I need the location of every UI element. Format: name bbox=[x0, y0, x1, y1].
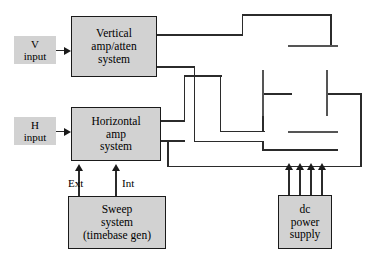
block-v-input: V input bbox=[14, 36, 56, 64]
wire-vamp-out-bottom-v1 bbox=[194, 66, 196, 142]
label-int: Int bbox=[122, 177, 134, 189]
block-h-input: H input bbox=[14, 117, 56, 145]
arrowhead-ext bbox=[75, 164, 83, 171]
wire-vamp-out-top-v1 bbox=[242, 14, 244, 36]
vertical-amp-line-2: amp/atten bbox=[91, 40, 136, 53]
arrowhead-dc-power-1 bbox=[285, 163, 293, 170]
h-input-line-2: input bbox=[24, 131, 47, 143]
dc-power-line-2: power bbox=[291, 216, 320, 229]
oscilloscope-block-diagram: V input H input Vertical amp/atten syste… bbox=[0, 0, 379, 259]
wire-vamp-out-bottom-h2 bbox=[194, 141, 264, 143]
wire-int-trigger bbox=[115, 171, 117, 196]
wire-hamp-out-bottom-v1 bbox=[167, 140, 169, 167]
block-horizontal-amp-system: Horizontal amp system bbox=[71, 107, 161, 161]
arrowhead-dc-power-4 bbox=[318, 163, 326, 170]
crt-horizontal-plate-lower bbox=[288, 131, 338, 133]
wire-crt-mid-v bbox=[220, 75, 222, 132]
v-input-line-2: input bbox=[24, 50, 47, 62]
vertical-amp-line-3: system bbox=[98, 53, 130, 66]
block-sweep-system: Sweep system (timebase gen) bbox=[68, 196, 166, 249]
wire-vamp-out-top-h1 bbox=[157, 34, 243, 36]
wire-hamp-out-top-v1 bbox=[184, 75, 186, 122]
vertical-amp-line-1: Vertical bbox=[96, 27, 132, 40]
wire-hamp-out-top-h1 bbox=[161, 120, 185, 122]
wire-dc-power-rail-2 bbox=[299, 170, 300, 195]
block-dc-power-supply: dc power supply bbox=[278, 195, 332, 249]
crt-vertical-plate-right bbox=[326, 70, 328, 116]
dc-power-line-1: dc bbox=[300, 203, 311, 216]
wire-hamp-out-bottom-v2 bbox=[360, 93, 362, 167]
dc-power-line-3: supply bbox=[290, 228, 321, 241]
crt-horizontal-plate-upper bbox=[288, 45, 338, 47]
arrowhead-v-input bbox=[64, 47, 71, 55]
sweep-system-line-3: (timebase gen) bbox=[83, 229, 151, 242]
label-ext: Ext bbox=[68, 177, 83, 189]
arrowhead-h-input bbox=[64, 128, 71, 136]
wire-vamp-out-bottom-h3 bbox=[262, 149, 338, 151]
horizontal-amp-line-2: amp bbox=[106, 128, 126, 141]
arrowhead-dc-power-2 bbox=[296, 163, 304, 170]
v-input-line-1: V bbox=[31, 38, 39, 50]
arrowhead-int bbox=[112, 164, 120, 171]
horizontal-amp-line-1: Horizontal bbox=[91, 115, 140, 128]
wire-dc-power-rail-1 bbox=[288, 170, 289, 195]
wire-crt-plate1-stem-h bbox=[262, 93, 292, 95]
h-input-line-1: H bbox=[31, 119, 39, 131]
crt-vertical-plate-left bbox=[262, 70, 264, 116]
wire-crt-mid-h bbox=[220, 131, 265, 133]
sweep-system-line-2: system bbox=[101, 216, 133, 229]
block-vertical-amp-atten-system: Vertical amp/atten system bbox=[71, 16, 157, 77]
wire-dc-power-rail-3 bbox=[310, 170, 311, 195]
wire-hamp-out-bottom-h3 bbox=[327, 93, 362, 95]
wire-vamp-out-bottom-h1 bbox=[157, 66, 195, 68]
wire-hamp-out-top-h2 bbox=[184, 75, 222, 77]
wire-vamp-out-top-h2 bbox=[242, 14, 332, 16]
wire-vamp-out-top-v2 bbox=[330, 14, 332, 46]
sweep-system-line-1: Sweep bbox=[102, 203, 133, 216]
wire-hamp-out-bottom-h2 bbox=[167, 166, 362, 168]
wire-dc-power-rail-4 bbox=[321, 170, 322, 195]
horizontal-amp-line-3: system bbox=[100, 140, 132, 153]
wire-hamp-out-bottom-h1 bbox=[161, 140, 185, 142]
arrowhead-dc-power-3 bbox=[307, 163, 315, 170]
